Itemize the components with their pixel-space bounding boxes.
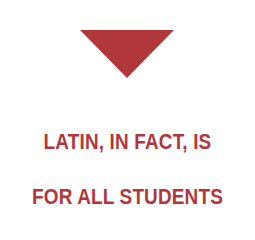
- down-triangle-icon: [80, 30, 174, 78]
- headline-line-1: LATIN, IN FACT, IS: [18, 131, 237, 153]
- headline-line-2: FOR ALL STUDENTS: [18, 186, 237, 208]
